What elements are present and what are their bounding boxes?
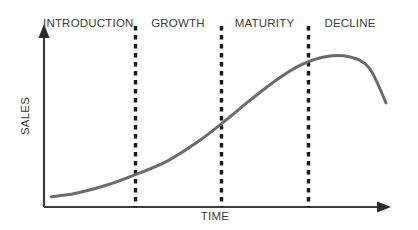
stage-label-introduction: INTRODUCTION (43, 16, 135, 30)
chart-canvas (0, 0, 418, 230)
stage-label-decline: DECLINE (310, 16, 390, 30)
product-life-cycle-diagram: INTRODUCTION GROWTH MATURITY DECLINE SAL… (0, 0, 418, 230)
stage-label-growth: GROWTH (137, 16, 219, 30)
sales-curve (51, 56, 386, 197)
stage-label-maturity: MATURITY (223, 16, 306, 30)
x-axis-title: TIME (175, 210, 255, 222)
y-axis-title: SALES (19, 86, 31, 146)
x-axis-arrowhead-icon (377, 202, 391, 213)
